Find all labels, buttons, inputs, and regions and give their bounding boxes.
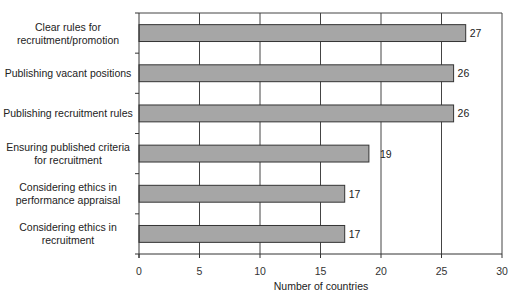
x-tick-label-30: 30 <box>496 265 508 277</box>
value-label-0: 27 <box>470 27 482 39</box>
axes <box>135 13 502 258</box>
category-label-4-1: performance appraisal <box>16 194 120 206</box>
x-tick-label-5: 5 <box>197 265 203 277</box>
value-label-5: 17 <box>349 228 361 240</box>
gridlines <box>139 13 502 254</box>
category-label-1-0: Publishing vacant positions <box>5 67 132 79</box>
category-label-5-0: Considering ethics in <box>19 221 117 233</box>
bar-4 <box>139 185 345 202</box>
bars <box>139 25 466 243</box>
bar-0 <box>139 25 466 42</box>
category-label-5-1: recruitment <box>42 234 95 246</box>
x-tick-label-20: 20 <box>375 265 387 277</box>
category-label-3-0: Ensuring published criteria <box>6 141 130 153</box>
bar-2 <box>139 105 454 122</box>
x-tick-label-25: 25 <box>436 265 448 277</box>
value-label-1: 26 <box>458 67 470 79</box>
value-label-4: 17 <box>349 188 361 200</box>
x-axis-title: Number of countries <box>274 280 369 292</box>
category-label-4-0: Considering ethics in <box>19 181 117 193</box>
value-label-2: 26 <box>458 107 470 119</box>
category-label-0-1: recruitment/promotion <box>17 34 119 46</box>
horizontal-bar-chart: 27Clear rules forrecruitment/promotion26… <box>0 0 520 304</box>
value-label-3: 19 <box>380 148 392 160</box>
bar-1 <box>139 65 454 82</box>
category-label-3-1: for recruitment <box>34 154 102 166</box>
bar-3 <box>139 145 369 162</box>
x-tick-label-10: 10 <box>254 265 266 277</box>
bar-5 <box>139 225 345 242</box>
category-label-2-0: Publishing recruitment rules <box>3 107 133 119</box>
x-tick-label-15: 15 <box>315 265 327 277</box>
category-label-0-0: Clear rules for <box>35 21 101 33</box>
x-tick-label-0: 0 <box>136 265 142 277</box>
